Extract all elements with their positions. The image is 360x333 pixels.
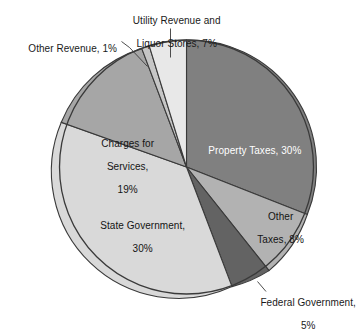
label-property-taxes-text: Property Taxes, 30%: [208, 145, 301, 156]
label-utility-revenue-line2: Liquor Stores, 7%: [136, 38, 216, 49]
label-federal-government-line2: 5%: [301, 320, 316, 331]
label-other-taxes: Other Taxes, 8%: [238, 199, 312, 257]
label-other-revenue: Other Revenue, 1%: [4, 31, 117, 66]
label-federal-government: Federal Government, 5%: [245, 285, 360, 333]
label-other-taxes-line1: Other: [268, 211, 293, 222]
label-charges-for-services-line2: Services,: [107, 161, 149, 172]
label-state-government: State Government, 30%: [81, 208, 193, 266]
label-utility-revenue-line1: Utility Revenue and: [133, 15, 221, 26]
label-property-taxes: Property Taxes, 30%: [197, 133, 307, 168]
label-state-government-line1: State Government,: [100, 220, 185, 231]
label-other-revenue-text: Other Revenue, 1%: [28, 43, 117, 54]
label-federal-government-line1: Federal Government,: [260, 297, 355, 308]
label-state-government-line2: 30%: [133, 243, 153, 254]
label-charges-for-services: Charges for Services, 19%: [78, 126, 166, 207]
label-charges-for-services-line3: 19%: [118, 184, 138, 195]
label-charges-for-services-line1: Charges for: [101, 138, 154, 149]
label-other-taxes-line2: Taxes, 8%: [257, 234, 304, 245]
label-utility-revenue-and-liquor-stores: Utility Revenue and Liquor Stores, 7%: [106, 3, 236, 61]
